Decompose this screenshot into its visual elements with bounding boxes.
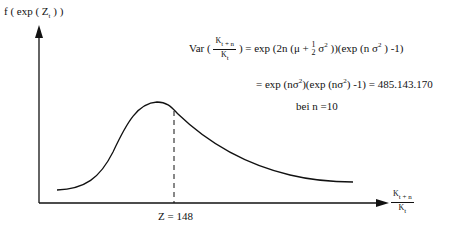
- marker-label: Z = 148: [158, 210, 193, 222]
- formula2-part-b: )(exp (nσ: [302, 78, 343, 90]
- y-label-text: f ( exp ( Z: [4, 5, 49, 17]
- x-axis-fraction: Kt + n Kt: [391, 189, 414, 215]
- formula-line-2: = exp (nσ2)(exp (nσ2) -1) = 485.143.170: [256, 77, 433, 90]
- density-curve: [57, 102, 353, 190]
- formula-var: Var (: [189, 42, 211, 54]
- x-axis-label: Kt + n Kt: [391, 189, 414, 215]
- formula2-part-c: ) -1) = 485.143.170: [347, 78, 433, 90]
- y-label-close: ) ): [51, 5, 64, 17]
- n-value-note: bei n =10: [296, 100, 338, 112]
- formula-part-c: ))(exp (n σ: [328, 42, 378, 54]
- y-axis-arrowhead: [35, 25, 43, 38]
- formula2-part-a: = exp (nσ: [256, 78, 299, 90]
- x-frac-den-sub: t: [404, 206, 406, 214]
- formula-line-3: bei n =10: [296, 100, 338, 112]
- formula-part-a: ) = exp (2n (μ +: [239, 42, 312, 54]
- formula-part-b: σ: [316, 42, 325, 54]
- formula-line-1: Var ( Kt + n Kt ) = exp (2n (μ + 12 σ2 )…: [189, 36, 403, 62]
- formula-part-d: ) -1): [381, 42, 403, 54]
- frac-num-sub: t + n: [221, 40, 234, 48]
- y-axis-label: f ( exp ( Zt ) ): [4, 5, 63, 20]
- x-axis-arrowhead: [376, 199, 389, 207]
- frac-den-sub: t: [227, 53, 229, 61]
- marker-label-text: Z = 148: [158, 210, 193, 222]
- x-frac-num-sub: t + n: [399, 193, 412, 201]
- formula-fraction: Kt + n Kt: [213, 36, 236, 62]
